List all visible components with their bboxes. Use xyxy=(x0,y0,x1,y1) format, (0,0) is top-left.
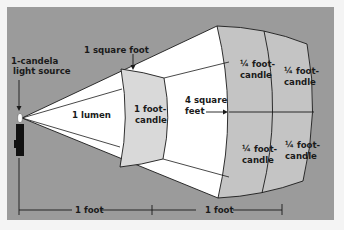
distance-label-1: 1 foot xyxy=(75,205,104,215)
square-foot-label: 1 square foot xyxy=(84,45,149,55)
four-sq-feet-label-2: feet xyxy=(185,106,205,116)
quarter-tl-label-1: ¼ foot- xyxy=(240,59,276,69)
source-label-2: light source xyxy=(13,66,71,76)
inverse-square-diagram: 1-candela light source 1 square foot 1 l… xyxy=(0,0,344,230)
lumen-label: 1 lumen xyxy=(72,110,111,120)
distance-label-2: 1 foot xyxy=(205,205,234,215)
quarter-tl-label-2: candle xyxy=(240,70,272,80)
quarter-bl-label-2: candle xyxy=(242,155,274,165)
near-patch-label-1: 1 foot- xyxy=(134,104,167,114)
source-label-1: 1-candela xyxy=(11,56,58,66)
quarter-tr-label-2: candle xyxy=(284,77,316,87)
quarter-tr-label-1: ¼ foot- xyxy=(284,66,320,76)
quarter-br-label-1: ¼ foot- xyxy=(285,140,321,150)
near-patch-label-2: candle xyxy=(135,115,167,125)
quarter-br-label-2: candle xyxy=(285,151,317,161)
four-sq-feet-label-1: 4 square xyxy=(185,95,227,105)
quarter-bl-label-1: ¼ foot- xyxy=(242,144,278,154)
